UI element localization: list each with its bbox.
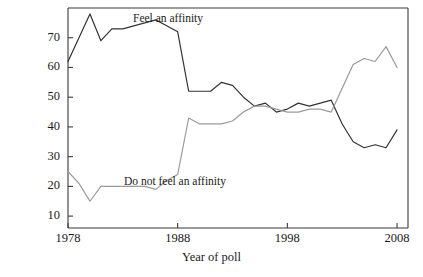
series-line-affinity bbox=[68, 14, 397, 148]
plot-frame bbox=[68, 8, 408, 228]
data-series bbox=[68, 14, 397, 201]
line-chart bbox=[0, 0, 423, 277]
series-line-no-affinity bbox=[68, 47, 397, 202]
figure-container: 10203040506070 1978198819982008 Year of … bbox=[0, 0, 423, 277]
